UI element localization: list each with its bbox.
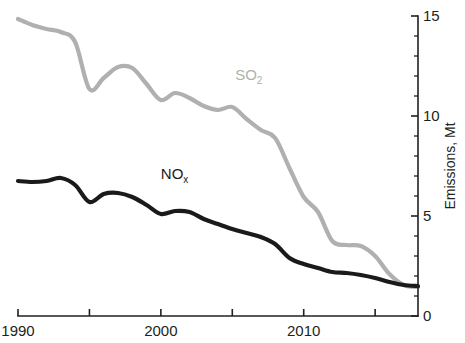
- y-axis: 051015: [411, 7, 440, 324]
- plot-area: SO2NOx: [18, 19, 418, 287]
- series-line-nox: [18, 178, 418, 286]
- x-tick-label: 1990: [1, 322, 34, 339]
- series-line-so2: [18, 19, 418, 287]
- x-tick-label: 2000: [144, 322, 177, 339]
- chart-canvas: SO2NOx 051015 199020002010 Emissions, Mt: [0, 0, 465, 343]
- x-axis: 199020002010: [1, 309, 418, 339]
- series-label-subscript: x: [183, 174, 188, 185]
- y-tick-label: 5: [423, 207, 431, 224]
- series-inline-labels: SO2NOx: [161, 66, 263, 185]
- series-label-so2: SO2: [235, 66, 263, 86]
- y-tick-label: 0: [423, 307, 431, 324]
- series-label-nox: NOx: [161, 165, 189, 185]
- y-tick-label: 15: [423, 7, 440, 24]
- series-group: [18, 19, 418, 287]
- y-tick-label: 10: [423, 107, 440, 124]
- series-label-subscript: 2: [257, 75, 263, 86]
- x-tick-label: 2010: [287, 322, 320, 339]
- emissions-line-chart: SO2NOx 051015 199020002010 Emissions, Mt: [0, 0, 465, 343]
- y-axis-title: Emissions, Mt: [442, 122, 458, 209]
